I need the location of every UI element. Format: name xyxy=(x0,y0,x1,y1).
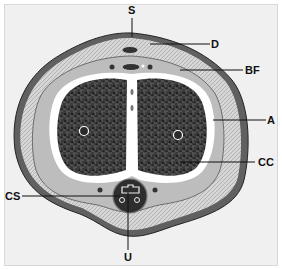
dorsal-vein-superficial xyxy=(122,47,138,54)
label-d: D xyxy=(211,39,219,50)
label-cc: CC xyxy=(258,157,274,168)
label-s: S xyxy=(128,5,135,16)
label-u: U xyxy=(124,252,132,263)
deep-artery-left xyxy=(80,127,89,136)
cross-section-diagram xyxy=(0,0,282,269)
dorsal-vein-deep xyxy=(122,64,140,71)
label-cs: CS xyxy=(5,191,20,202)
label-bf: BF xyxy=(245,65,260,76)
deep-artery-right xyxy=(174,131,183,140)
label-a: A xyxy=(267,115,275,126)
